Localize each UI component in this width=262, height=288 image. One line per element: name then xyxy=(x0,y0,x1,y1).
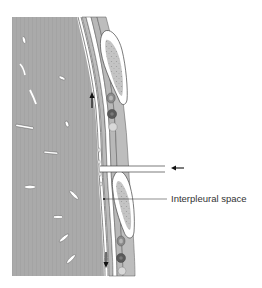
interpleural-space-label: Interpleural space xyxy=(171,194,247,204)
pleura-diagram xyxy=(0,0,262,288)
interpleural-leader-dot xyxy=(103,198,105,200)
needle-instrument xyxy=(100,166,165,172)
insertion-arrow-icon xyxy=(171,166,184,171)
